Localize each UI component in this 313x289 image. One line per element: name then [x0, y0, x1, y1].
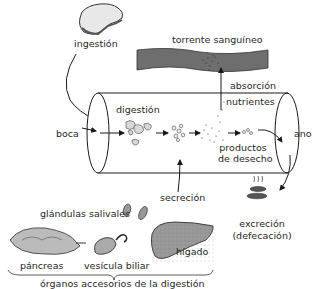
gallbladder-icon	[94, 235, 126, 255]
label-waste-line2: de desecho	[218, 153, 273, 164]
label-mouth: boca	[56, 128, 79, 139]
label-waste-line1: productos	[219, 142, 266, 153]
label-accessory-organs: órganos accesorios de la digestión	[40, 278, 204, 289]
label-liver: hígado	[176, 246, 208, 257]
bread-icon	[80, 4, 123, 34]
label-nutrients: nutrientes	[226, 96, 275, 107]
label-secretion: secreción	[160, 192, 205, 203]
food-particles	[172, 124, 185, 141]
food-chunks	[126, 121, 151, 146]
label-excretion: excreción	[232, 218, 292, 229]
waste-bits	[242, 129, 252, 135]
label-ingestion: ingestión	[74, 38, 118, 49]
label-bloodstream: torrente sanguíneo	[172, 34, 263, 45]
label-waste-products: productos de desecho	[218, 142, 268, 164]
label-pancreas: páncreas	[20, 260, 63, 271]
label-digestion: digestión	[116, 104, 160, 115]
label-gallbladder: vesícula biliar	[84, 260, 149, 271]
label-defecation: (defecación)	[228, 230, 296, 241]
secretion-arrow	[178, 160, 180, 192]
feces-icon	[247, 176, 267, 199]
pancreas-icon	[10, 228, 86, 255]
label-absorption: absorción	[230, 80, 276, 91]
label-salivary-glands: glándulas salivales	[40, 208, 130, 219]
label-anus: ano	[294, 128, 312, 139]
